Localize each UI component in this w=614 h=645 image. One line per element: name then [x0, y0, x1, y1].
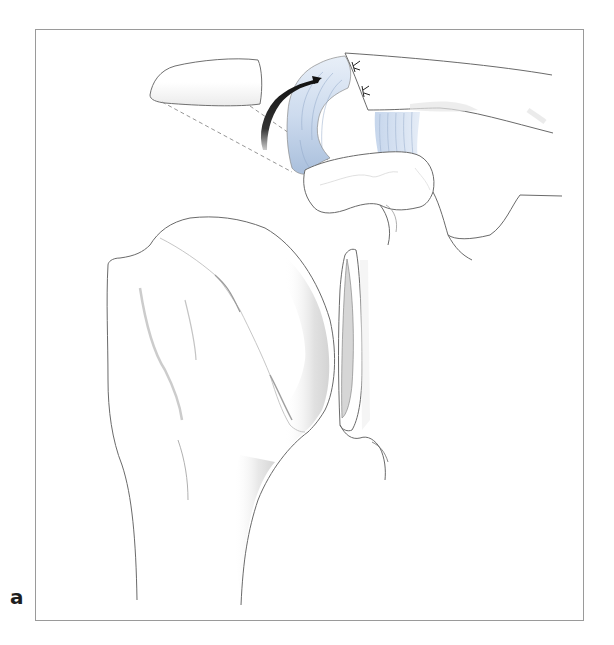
coracoacromial-ligament-transfer: [287, 56, 351, 174]
glenoid: [339, 249, 389, 480]
shoulder-illustration: [0, 0, 614, 645]
humerus: [107, 217, 334, 605]
acromion-fragment: [150, 59, 262, 106]
panel-label: a: [10, 585, 24, 609]
